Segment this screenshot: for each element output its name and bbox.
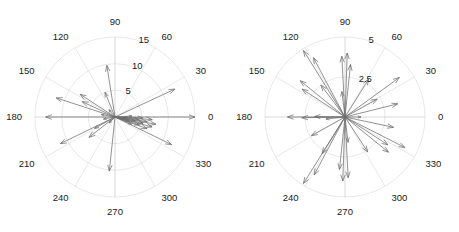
grid-spoke — [46, 77, 115, 117]
vector-arrow — [315, 114, 345, 118]
vector-arrow — [321, 85, 345, 117]
vector-arrow — [60, 117, 115, 144]
radial-tick-label: 5 — [126, 85, 131, 96]
angle-tick-label: 120 — [283, 31, 299, 42]
angle-tick-label: 150 — [19, 65, 35, 76]
arrow-head — [302, 89, 308, 94]
angle-tick-label: 210 — [19, 158, 35, 169]
arrow-head — [303, 51, 308, 57]
radial-tick-label: 10 — [132, 60, 143, 71]
vector-shaft — [115, 89, 175, 117]
angle-tick-label: 120 — [53, 31, 69, 42]
angle-tick-label: 60 — [392, 31, 403, 42]
polar-plot-right: 03060901201501802102402703003302.55 — [229, 0, 459, 232]
vector-arrow — [303, 51, 345, 117]
grid-spoke — [115, 48, 155, 117]
vector-shaft — [56, 98, 115, 117]
vector-arrow — [345, 117, 368, 152]
radial-tick-label: 5 — [368, 34, 373, 45]
angle-tick-label: 240 — [283, 192, 299, 203]
angle-tick-label: 0 — [208, 111, 213, 122]
vector-group — [46, 65, 195, 171]
vector-shaft — [345, 104, 398, 117]
arrow-head — [313, 58, 318, 64]
arrow-head — [362, 146, 367, 152]
angle-tick-label: 180 — [6, 111, 22, 122]
angle-tick-label: 240 — [53, 192, 69, 203]
angle-tick-label: 300 — [162, 192, 178, 203]
vector-arrow — [108, 117, 115, 171]
grid-spoke — [345, 117, 414, 157]
arrow-head — [382, 140, 388, 145]
vector-arrow — [56, 98, 115, 117]
angle-tick-label: 180 — [236, 111, 252, 122]
angle-tick-label: 300 — [392, 192, 408, 203]
grid-spoke — [75, 48, 115, 117]
arrow-head — [80, 94, 86, 99]
vector-shaft — [345, 117, 348, 178]
polar-axes: 030609012015018021024027030033051015 — [0, 0, 230, 232]
radial-label-group: 2.55 — [359, 34, 374, 84]
vector-shaft — [342, 56, 345, 117]
angle-tick-label: 30 — [426, 65, 437, 76]
angle-tick-label: 60 — [162, 31, 173, 42]
angle-tick-label: 270 — [337, 206, 353, 217]
arrow-head — [303, 177, 308, 183]
radial-label-group: 51015 — [126, 34, 149, 97]
angle-tick-label: 210 — [249, 158, 265, 169]
polar-plot-left: 030609012015018021024027030033051015 — [0, 0, 230, 232]
grid-spoke — [115, 77, 184, 117]
angle-tick-label: 270 — [107, 206, 123, 217]
angle-tick-label: 30 — [196, 65, 207, 76]
vector-shaft — [315, 116, 345, 117]
vector-shaft — [303, 51, 345, 117]
angle-tick-label: 330 — [196, 158, 212, 169]
vector-shaft — [60, 117, 115, 144]
polar-axes: 03060901201501802102402703003302.55 — [229, 0, 459, 232]
vector-arrow — [345, 78, 399, 118]
vector-arrow — [115, 89, 175, 117]
angle-tick-label: 90 — [110, 16, 121, 27]
vector-shaft — [80, 94, 115, 117]
vector-arrow — [80, 94, 115, 117]
vector-arrow — [89, 117, 115, 137]
radial-tick-label: 15 — [138, 34, 149, 45]
vector-shaft — [345, 117, 368, 152]
angle-tick-label: 90 — [340, 16, 351, 27]
radial-tick-label: 2.5 — [359, 73, 372, 84]
polar-figure: 030609012015018021024027030033051015 030… — [0, 0, 459, 232]
angle-tick-label: 330 — [426, 158, 442, 169]
grid-spoke — [305, 48, 345, 117]
vector-shaft — [345, 78, 399, 117]
vector-arrow — [302, 89, 345, 117]
vector-arrow — [345, 103, 398, 117]
angle-tick-label: 150 — [249, 65, 265, 76]
vector-shaft — [321, 85, 345, 117]
vector-shaft — [89, 117, 115, 137]
angle-tick-label: 0 — [438, 111, 443, 122]
vector-shaft — [302, 89, 345, 117]
arrow-head — [314, 168, 319, 174]
